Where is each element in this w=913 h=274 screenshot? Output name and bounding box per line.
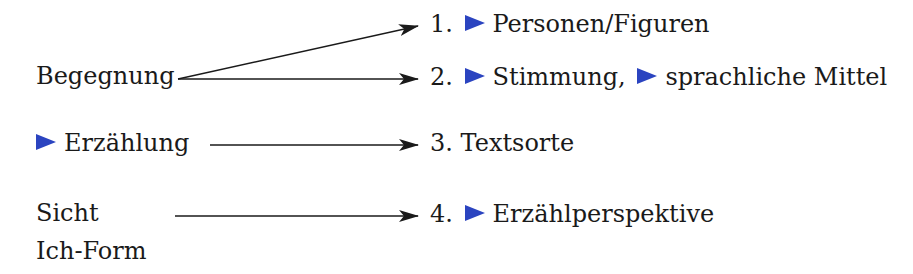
item-number: 2. <box>430 63 453 91</box>
arrow-begegnung-to-1 <box>178 26 418 79</box>
item-1: 1. Personen/Figuren <box>430 12 710 36</box>
item-number: 1. <box>430 10 453 38</box>
blue-arrowhead-marker-icon <box>465 205 485 221</box>
item-text: sprachliche Mittel <box>665 63 887 91</box>
item-number: 3. <box>430 129 453 157</box>
item-4: 4. Erzählperspektive <box>430 202 714 226</box>
item-text: Textsorte <box>461 129 575 157</box>
blue-arrowhead-marker-icon <box>36 134 56 150</box>
blue-arrowhead-marker-icon <box>465 15 485 31</box>
item-2: 2. Stimmung, sprachliche Mittel <box>430 65 887 89</box>
label-erzaehlung-row: Erzählung <box>36 131 189 155</box>
label-erzaehlung: Erzählung <box>64 129 189 157</box>
blue-arrowhead-marker-icon <box>637 68 657 84</box>
label-ich-form: Ich-Form <box>36 239 147 263</box>
label-begegnung: Begegnung <box>36 64 175 88</box>
blue-arrowhead-marker-icon <box>465 68 485 84</box>
item-text: Stimmung, <box>493 63 626 91</box>
item-text: Personen/Figuren <box>493 10 710 38</box>
label-sicht: Sicht <box>36 201 99 225</box>
item-text: Erzählperspektive <box>493 200 715 228</box>
item-3: 3. Textsorte <box>430 131 574 155</box>
item-number: 4. <box>430 200 453 228</box>
